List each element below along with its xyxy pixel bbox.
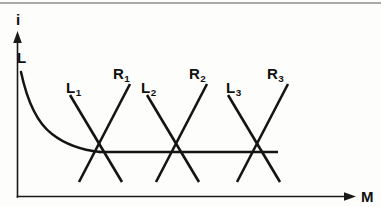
curve-label-L3: L3 (226, 80, 241, 95)
curve-label-L1: L1 (66, 80, 81, 95)
curve-L1 (70, 95, 122, 182)
curve-label-L: L (17, 50, 26, 65)
curve-label-L2-subscript: 2 (151, 87, 157, 98)
curve-L3 (228, 95, 280, 182)
curve-label-R2: R2 (189, 66, 205, 81)
curve-R3 (237, 84, 288, 182)
curve-label-R3-subscript: 3 (278, 73, 284, 84)
curve-label-R1: R1 (113, 66, 129, 81)
curve-label-R1-base: R (113, 65, 124, 82)
curve-label-L3-base: L (226, 79, 235, 96)
diagram-canvas (0, 0, 381, 207)
figure-container: i M L L1 R1 L2 R2 L3 R3 (0, 0, 381, 207)
curve-label-L3-subscript: 3 (236, 87, 242, 98)
curve-label-R1-subscript: 1 (124, 73, 130, 84)
curve-label-R3-base: R (267, 65, 278, 82)
curve-label-R2-base: R (189, 65, 200, 82)
curve-label-L2: L2 (141, 80, 156, 95)
curve-L2 (147, 95, 199, 182)
curve-label-L1-base: L (66, 79, 75, 96)
x-axis-label: M (361, 189, 374, 204)
curve-R2 (156, 84, 207, 182)
curve-L (21, 72, 100, 152)
interest-rate-axis-arrowhead (13, 31, 22, 43)
curve-label-L2-base: L (141, 79, 150, 96)
curve-label-R3: R3 (267, 66, 283, 81)
curve-label-R2-subscript: 2 (200, 73, 206, 84)
curve-label-L1-subscript: 1 (76, 87, 82, 98)
money-quantity-axis-arrowhead (344, 192, 356, 201)
curve-R1 (79, 84, 130, 182)
y-axis-label: i (16, 12, 20, 27)
